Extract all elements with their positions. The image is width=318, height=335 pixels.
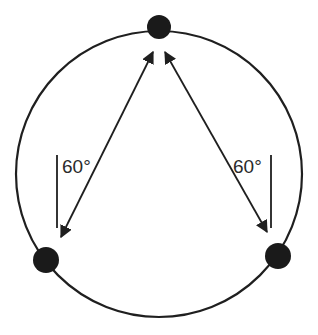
top-point-dot [147,15,171,39]
right-angle-label: 60° [233,156,262,177]
left-angle-label: 60° [62,156,91,177]
circle-diagram: 60° 60° [0,0,318,335]
left-chord-arrow [61,52,153,237]
bottom-left-point-dot [33,247,59,273]
bottom-right-point-dot [265,243,291,269]
right-chord-arrow [165,52,267,232]
